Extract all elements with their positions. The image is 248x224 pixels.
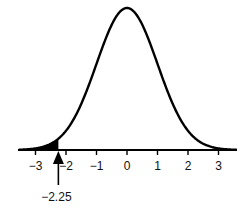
x-tick-label: 3 xyxy=(215,159,222,173)
density-curve xyxy=(19,8,237,150)
x-tick-label: −1 xyxy=(90,159,104,173)
annotation-label: −2.25 xyxy=(41,190,72,204)
x-tick-label: 1 xyxy=(154,159,161,173)
x-tick-label: −3 xyxy=(29,159,43,173)
normal-distribution-chart: −3−2−10123 −2.25 xyxy=(0,0,248,224)
x-tick-label: 0 xyxy=(124,159,131,173)
x-tick-label: 2 xyxy=(185,159,192,173)
